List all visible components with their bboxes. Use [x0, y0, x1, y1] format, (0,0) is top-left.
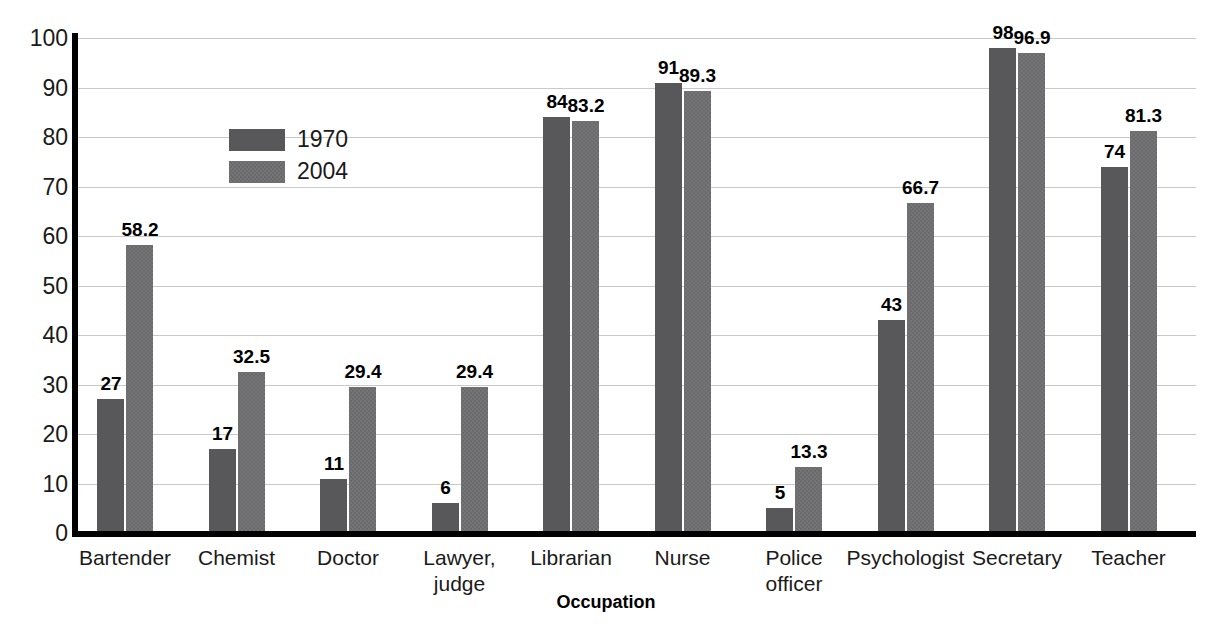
bar — [1130, 131, 1157, 533]
bar-value-label: 58.2 — [110, 219, 170, 241]
y-tick-label: 80 — [8, 124, 68, 151]
y-tick-label: 50 — [8, 272, 68, 299]
bar-group: 9189.3 — [655, 38, 711, 533]
bar-group: 1732.5 — [209, 38, 265, 533]
y-tick-label: 60 — [8, 223, 68, 250]
bar — [907, 203, 934, 533]
bar-value-label: 32.5 — [222, 346, 282, 368]
legend: 1970 2004 — [229, 126, 348, 190]
bar — [97, 399, 124, 533]
bar — [1101, 167, 1128, 533]
bar — [209, 449, 236, 533]
bar-group: 629.4 — [432, 38, 488, 533]
y-tick-label: 70 — [8, 173, 68, 200]
legend-swatch-2004 — [229, 161, 285, 183]
legend-label-1970: 1970 — [297, 126, 348, 153]
bar-value-label: 83.2 — [556, 95, 616, 117]
bar-value-label: 89.3 — [668, 65, 728, 87]
bar-group: 1129.4 — [320, 38, 376, 533]
bar — [572, 121, 599, 533]
bar — [349, 387, 376, 533]
bar — [543, 117, 570, 533]
bar-value-label: 29.4 — [445, 361, 505, 383]
bar — [795, 467, 822, 533]
y-tick-label: 10 — [8, 470, 68, 497]
y-tick-label: 100 — [8, 25, 68, 52]
bar — [878, 320, 905, 533]
y-tick-label: 0 — [8, 520, 68, 547]
bar-group: 8483.2 — [543, 38, 599, 533]
category-label: Teacher — [1049, 545, 1209, 571]
legend-item: 2004 — [229, 158, 348, 185]
bar — [766, 508, 793, 533]
bar — [126, 245, 153, 533]
legend-label-2004: 2004 — [297, 158, 348, 185]
bar-value-label: 81.3 — [1114, 105, 1174, 127]
x-axis-title: Occupation — [0, 592, 1212, 613]
bar — [320, 479, 347, 533]
bar-value-label: 29.4 — [333, 361, 393, 383]
bar — [1018, 53, 1045, 533]
x-axis-line — [72, 531, 1196, 537]
bar-group: 2758.2 — [97, 38, 153, 533]
bar-value-label: 66.7 — [891, 177, 951, 199]
plot-area: 2758.21732.51129.4629.48483.29189.3513.3… — [78, 38, 1196, 533]
bar — [989, 48, 1016, 533]
bar-group: 9896.9 — [989, 38, 1045, 533]
bar-group: 513.3 — [766, 38, 822, 533]
bar — [655, 83, 682, 533]
bar — [238, 372, 265, 533]
y-tick-label: 40 — [8, 322, 68, 349]
y-tick-label: 20 — [8, 421, 68, 448]
bar-group: 4366.7 — [878, 38, 934, 533]
bar — [684, 91, 711, 533]
legend-item: 1970 — [229, 126, 348, 153]
bar-chart-figure: 2758.21732.51129.4629.48483.29189.3513.3… — [0, 0, 1212, 624]
bar — [432, 503, 459, 533]
bar-group: 7481.3 — [1101, 38, 1157, 533]
y-tick-label: 30 — [8, 371, 68, 398]
bar-value-label: 13.3 — [779, 441, 839, 463]
bar — [461, 387, 488, 533]
legend-swatch-1970 — [229, 129, 285, 151]
bar-value-label: 96.9 — [1002, 27, 1062, 49]
y-tick-label: 90 — [8, 74, 68, 101]
y-axis-line — [72, 33, 78, 536]
